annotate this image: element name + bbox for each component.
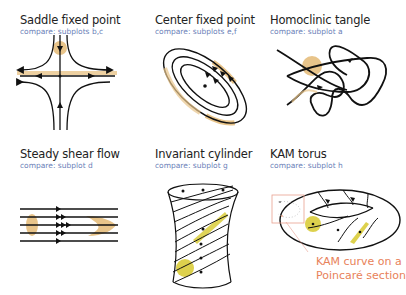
tangle-diagram <box>272 40 402 135</box>
saddle-diagram <box>15 40 115 130</box>
saddle-band <box>17 71 117 75</box>
panel-compare-shear: compare: subplot d <box>20 161 93 170</box>
shear-diagram <box>18 208 123 258</box>
center-point <box>203 84 207 88</box>
panel-title-saddle: Saddle fixed point <box>20 13 120 27</box>
kam-callout-line1: KAM curve on a <box>316 255 406 269</box>
panel-compare-center: compare: subplots e,f <box>155 27 237 36</box>
panel-compare-torus: compare: subplot h <box>270 161 343 170</box>
poincare-section-box <box>272 195 304 223</box>
panel-compare-saddle: compare: subplots b,c <box>20 27 103 36</box>
panel-title-shear: Steady shear flow <box>20 147 120 161</box>
panel-compare-tangle: compare: subplot a <box>270 27 343 36</box>
panel-title-center: Center fixed point <box>155 13 255 27</box>
panel-compare-cylinder: compare: subplot g <box>155 161 228 170</box>
panel-title-cylinder: Invariant cylinder <box>155 147 252 161</box>
panel-title-tangle: Homoclinic tangle <box>270 13 370 27</box>
cylinder-diagram <box>163 182 243 292</box>
center-diagram <box>150 38 260 133</box>
kam-callout: KAM curve on a Poincaré section <box>316 255 406 283</box>
torus-diagram <box>268 180 404 260</box>
panel-title-torus: KAM torus <box>270 147 327 161</box>
kam-callout-line2: Poincaré section <box>316 269 406 283</box>
